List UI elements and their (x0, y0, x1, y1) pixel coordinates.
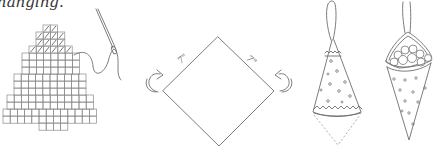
needle-icon (96, 9, 117, 54)
cone-ornament-filled-figure (386, 2, 432, 140)
illustration-panel: hanging. 7" 7" (0, 0, 433, 147)
side-label-left: 7" (175, 52, 189, 66)
fold-arrow-left-icon (146, 70, 163, 92)
folded-square-figure: 7" 7" (146, 37, 292, 146)
illustration-canvas: 7" 7" (0, 0, 433, 147)
cross-stitch-tree-figure (3, 25, 97, 130)
fold-arrow-right-icon (275, 70, 292, 92)
cone-ornament-open-figure (313, 1, 362, 145)
